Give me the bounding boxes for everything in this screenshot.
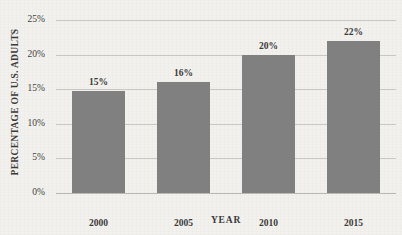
bar[interactable] xyxy=(327,41,380,193)
bar-value-label: 15% xyxy=(62,77,135,87)
bar[interactable] xyxy=(72,91,125,193)
bar[interactable] xyxy=(242,55,295,193)
bar-group[interactable]: 16% xyxy=(157,20,210,193)
bar-chart-figure: PERCENTAGE OF U.S. ADULTS 0%5%10%15%20%2… xyxy=(0,0,402,235)
bar-group[interactable]: 15% xyxy=(72,20,125,193)
y-axis-tick-label: 20% xyxy=(0,49,45,59)
bar-value-label: 16% xyxy=(147,68,220,78)
bar-group[interactable]: 20% xyxy=(242,20,295,193)
gridline xyxy=(56,193,396,194)
y-axis-tick-label: 10% xyxy=(0,118,45,128)
plot-area: 0%5%10%15%20%25% 15%16%20%22% 2000200520… xyxy=(56,20,396,193)
bar-group[interactable]: 22% xyxy=(327,20,380,193)
y-axis-tick-label: 0% xyxy=(0,187,45,197)
y-axis-tick-label: 5% xyxy=(0,152,45,162)
bar-value-label: 20% xyxy=(232,41,305,51)
bar-value-label: 22% xyxy=(317,27,390,37)
bars-layer: 15%16%20%22% xyxy=(56,20,396,193)
bar[interactable] xyxy=(157,82,210,193)
y-axis-tick-label: 15% xyxy=(0,83,45,93)
x-axis-title: YEAR xyxy=(56,215,396,225)
y-axis-tick-label: 25% xyxy=(0,14,45,24)
y-axis-title: PERCENTAGE OF U.S. ADULTS xyxy=(10,7,20,197)
